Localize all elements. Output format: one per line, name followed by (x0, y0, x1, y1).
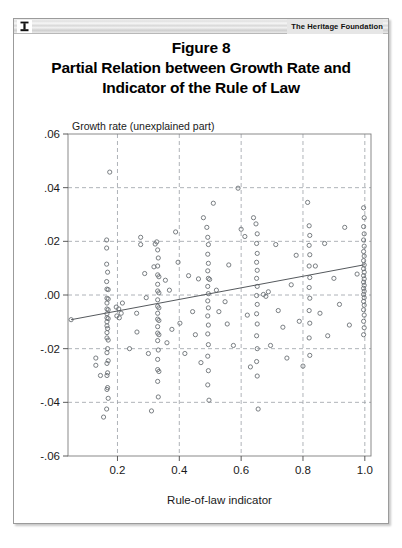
y-tick-label: -.02 (40, 343, 60, 355)
x-tick-label: 0.8 (295, 464, 311, 476)
y-tick-label: .04 (44, 182, 61, 194)
y-tick-label: -.06 (40, 450, 60, 462)
axis-labels: Growth rate (unexplained part)Rule-of-la… (72, 120, 272, 506)
y-tick-label: .06 (44, 128, 60, 140)
y-axis-title: Growth rate (unexplained part) (72, 120, 214, 132)
figure-card: The Heritage Foundation Figure 8 Partial… (13, 18, 389, 524)
y-tick-label: -.04 (40, 396, 60, 408)
x-tick-label: 0.4 (171, 464, 188, 476)
x-tick-label: 0.6 (233, 464, 249, 476)
x-axis-title: Rule-of-law indicator (167, 494, 272, 506)
y-tick-label: .00 (44, 289, 60, 301)
data-points (69, 170, 366, 419)
gridlines (68, 134, 371, 456)
scatter-chart: .06.04.02.00-.02-.04-.060.20.40.60.81.0 … (14, 19, 390, 525)
y-tick-label: .02 (44, 235, 60, 247)
x-tick-label: 0.2 (109, 464, 125, 476)
figure-page: The Heritage Foundation Figure 8 Partial… (0, 0, 402, 548)
x-tick-label: 1.0 (357, 464, 373, 476)
chart-canvas: .06.04.02.00-.02-.04-.060.20.40.60.81.0 … (14, 19, 390, 525)
